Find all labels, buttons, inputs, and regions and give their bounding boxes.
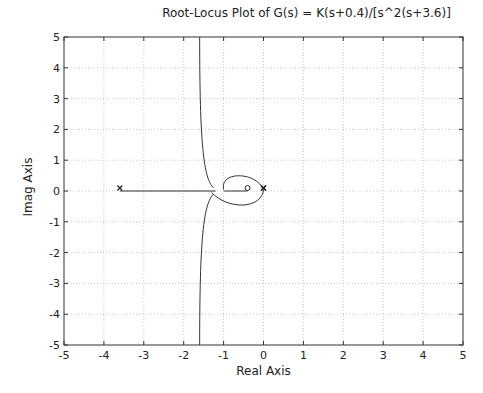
y-tick-label: -3 [49, 277, 60, 290]
x-tick-label: 1 [300, 349, 307, 362]
y-tick-label: -1 [49, 216, 60, 229]
y-tick-label: 0 [53, 185, 60, 198]
pole-marker [117, 186, 122, 191]
x-tick-label: -3 [138, 349, 149, 362]
y-tick-label: -2 [49, 247, 60, 260]
y-tick-label: 2 [53, 123, 60, 136]
y-tick-label: 5 [53, 31, 60, 44]
locus-branch [200, 37, 214, 188]
x-tick-label: 0 [260, 349, 267, 362]
locus-branch [212, 176, 264, 205]
y-tick-label: -4 [49, 308, 60, 321]
x-tick-label: -2 [178, 349, 189, 362]
x-tick-label: 3 [380, 349, 387, 362]
y-tick-label: 1 [53, 154, 60, 167]
x-tick-label: -4 [98, 349, 109, 362]
x-tick-label: 5 [460, 349, 467, 362]
y-tick-label: 3 [53, 93, 60, 106]
x-tick-label: 2 [340, 349, 347, 362]
x-tick-label: 4 [420, 349, 427, 362]
x-tick-label: -5 [59, 349, 70, 362]
y-tick-label: -5 [49, 339, 60, 352]
zero-marker [245, 186, 250, 191]
x-tick-label: -1 [218, 349, 229, 362]
y-tick-label: 4 [53, 62, 60, 75]
root-locus-plot: -5-4-3-2-1012345-5-4-3-2-1012345 [0, 0, 483, 393]
locus-branch [200, 194, 214, 345]
